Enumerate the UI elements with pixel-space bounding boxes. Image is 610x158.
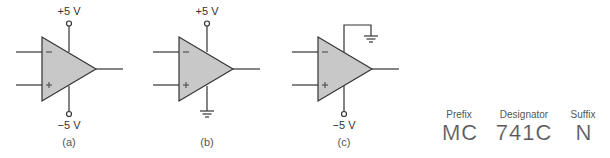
positive-supply-terminal-icon [67, 21, 72, 26]
suffix-label: Suffix [571, 110, 596, 120]
opamp-triangle [318, 37, 372, 101]
positive-supply-label-a: +5 V [58, 6, 81, 17]
opamp-circuit-b [153, 21, 260, 117]
opamp-triangle [179, 37, 233, 101]
designator-value: 741C [496, 122, 553, 144]
ground-icon [364, 36, 378, 42]
opamp-circuit-a [16, 21, 123, 117]
caption-a: (a) [62, 137, 75, 148]
opamp-circuit-c [292, 25, 399, 117]
positive-supply-label-b: +5 V [196, 6, 219, 17]
designator-label: Designator [500, 110, 548, 120]
negative-supply-label-c: −5 V [333, 120, 356, 131]
prefix-label: Prefix [446, 110, 472, 120]
ground-icon [200, 111, 214, 117]
caption-c: (c) [338, 137, 351, 148]
negative-supply-terminal-icon [342, 112, 347, 117]
caption-b: (b) [200, 137, 213, 148]
positive-supply-terminal-icon [205, 21, 210, 26]
negative-supply-label-a: −5 V [58, 120, 81, 131]
suffix-value: N [576, 122, 593, 144]
negative-supply-terminal-icon [67, 112, 72, 117]
prefix-value: MC [442, 122, 478, 144]
